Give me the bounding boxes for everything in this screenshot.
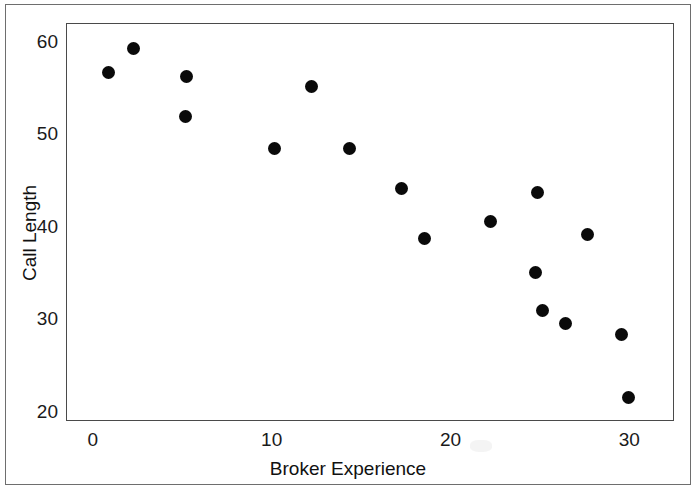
- data-points-layer: [67, 24, 673, 420]
- data-point: [622, 391, 635, 404]
- scatter-plot-figure: 2030405060 0102030 Broker Experience Cal…: [0, 0, 696, 490]
- data-point: [536, 304, 549, 317]
- data-point: [581, 228, 594, 241]
- x-axis-title: Broker Experience: [0, 458, 696, 480]
- data-point: [395, 182, 408, 195]
- data-point: [127, 42, 140, 55]
- data-point: [343, 142, 356, 155]
- x-tick-label: 0: [63, 429, 123, 451]
- data-point: [305, 80, 318, 93]
- data-point: [559, 317, 572, 330]
- data-point: [179, 110, 192, 123]
- y-tick-label: 60: [18, 31, 58, 53]
- data-point: [615, 328, 628, 341]
- data-point: [180, 70, 193, 83]
- x-axis-tick-labels: 0102030: [0, 429, 696, 455]
- data-point: [268, 142, 281, 155]
- x-tick-label: 10: [242, 429, 302, 451]
- data-point: [529, 266, 542, 279]
- y-tick-label: 20: [18, 401, 58, 423]
- data-point: [418, 232, 431, 245]
- data-point: [531, 186, 544, 199]
- x-tick-label: 30: [599, 429, 659, 451]
- data-point: [484, 215, 497, 228]
- data-point: [102, 66, 115, 79]
- y-axis-title: Call Length: [19, 103, 41, 363]
- x-tick-label: 20: [420, 429, 480, 451]
- plot-panel: [66, 23, 674, 421]
